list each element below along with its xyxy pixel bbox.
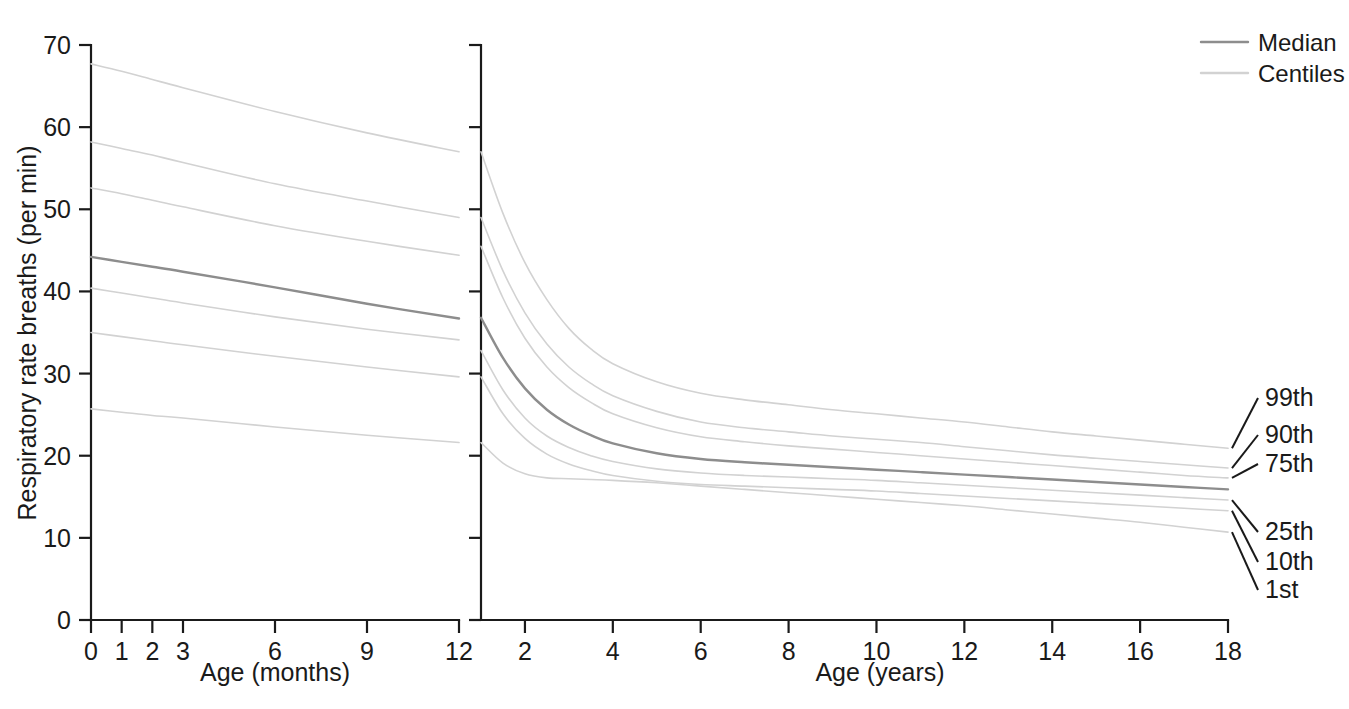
infants-panel: 01236912 Age (months) [84,64,473,686]
centile-label-99th: 99th [1265,383,1314,411]
children-x-axis-title: Age (years) [815,658,944,686]
x-tick-label: 3 [176,637,190,665]
series-90th [91,142,459,218]
chart-canvas: 010203040506070 Respiratory rate breaths… [0,0,1349,709]
children-panel: 24681012141618 Age (years) [469,45,1242,686]
series-median [91,257,459,319]
centile-label-1st: 1st [1265,575,1298,603]
centile-label-75th: 75th [1265,449,1314,477]
infants-x-axis-title: Age (months) [200,658,350,686]
infants-x-axis-ticks [91,620,459,633]
infants-series-group [91,64,459,443]
series-10th [91,333,459,377]
y-tick-label: 20 [43,442,71,470]
series-90th [481,218,1228,469]
x-tick-label: 14 [1038,637,1066,665]
y-tick-label: 10 [43,524,71,552]
y-tick-label: 30 [43,360,71,388]
leader-line-1st [1232,532,1258,590]
x-tick-label: 12 [950,637,978,665]
x-tick-label: 12 [445,637,473,665]
y-axis-tick-labels: 010203040506070 [43,31,71,634]
x-tick-label: 2 [518,637,532,665]
y-axis-title: Respiratory rate breaths (per min) [13,145,41,520]
x-tick-label: 2 [145,637,159,665]
x-tick-label: 16 [1126,637,1154,665]
children-x-axis-ticks [525,620,1228,633]
series-75th [481,246,1228,478]
centile-label-10th: 10th [1265,547,1314,575]
children-series-group [481,152,1228,532]
series-1st [91,409,459,443]
y-tick-label: 50 [43,195,71,223]
leader-line-25th [1232,500,1258,532]
y-axis: 010203040506070 Respiratory rate breaths… [13,31,91,634]
leader-line-10th [1232,511,1258,562]
x-tick-label: 9 [360,637,374,665]
y-axis-ticks [79,45,91,620]
centile-label-25th: 25th [1265,517,1314,545]
y-tick-label: 40 [43,277,71,305]
series-25th [91,288,459,340]
x-tick-label: 8 [782,637,796,665]
legend-label-median: Median [1258,29,1337,56]
leader-line-75th [1232,464,1258,478]
x-tick-label: 18 [1214,637,1242,665]
x-tick-label: 1 [115,637,129,665]
children-y-axis-ticks [469,45,481,620]
centile-annotations: 99th90th75th25th10th1st [1232,383,1314,603]
x-tick-label: 0 [84,637,98,665]
centile-label-90th: 90th [1265,420,1314,448]
x-tick-label: 6 [694,637,708,665]
x-tick-label: 4 [606,637,620,665]
y-tick-label: 60 [43,113,71,141]
series-99th [91,64,459,152]
y-tick-label: 0 [57,606,71,634]
chart-legend: MedianCentiles [1201,29,1345,87]
respiratory-rate-centile-chart: 010203040506070 Respiratory rate breaths… [0,0,1349,709]
y-tick-label: 70 [43,31,71,59]
series-25th [481,351,1228,501]
series-75th [91,188,459,255]
series-10th [481,377,1228,511]
legend-label-centiles: Centiles [1258,60,1345,87]
